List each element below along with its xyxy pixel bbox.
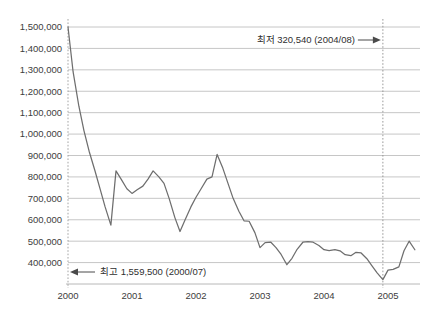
x-tick-label: 2002 [185,290,206,301]
min-annotation-text: 최저 320,540 (2004/08) [257,34,355,45]
y-tick-label: 600,000 [28,214,62,225]
y-axis-labels: 400,000500,000600,000700,000800,000900,0… [20,21,62,268]
min-annotation-arrow-head [373,36,381,43]
y-tick-label: 1,400,000 [20,43,62,54]
y-tick-label: 1,000,000 [20,128,62,139]
x-tick-label: 2004 [313,290,334,301]
y-tick-label: 900,000 [28,150,62,161]
chart-canvas: 400,000500,000600,000700,000800,000900,0… [0,0,445,324]
marker-lines-group [68,19,383,288]
series-line-series-1 [68,27,415,280]
max-annotation-text: 최고 1,559,500 (2000/07) [100,266,206,277]
x-tick-label: 2005 [377,290,398,301]
series-group [68,27,415,280]
gridlines-group [68,27,420,263]
line-chart: 400,000500,000600,000700,000800,000900,0… [0,0,445,324]
y-tick-label: 1,300,000 [20,64,62,75]
y-tick-label: 500,000 [28,236,62,247]
y-tick-label: 1,500,000 [20,21,62,32]
y-tick-label: 1,100,000 [20,107,62,118]
x-tick-label: 2003 [249,290,270,301]
y-tick-label: 1,200,000 [20,86,62,97]
x-axis-labels: 200020012002200320042005 [57,290,398,301]
x-tick-label: 2000 [57,290,78,301]
x-tick-label: 2001 [121,290,142,301]
y-tick-label: 700,000 [28,193,62,204]
y-tick-label: 800,000 [28,171,62,182]
y-tick-label: 400,000 [28,257,62,268]
